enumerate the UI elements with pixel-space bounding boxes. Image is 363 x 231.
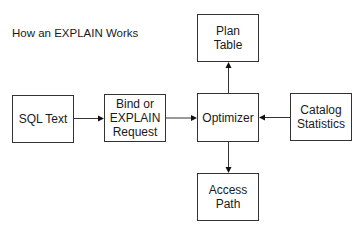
connector-arrows [0, 0, 363, 231]
